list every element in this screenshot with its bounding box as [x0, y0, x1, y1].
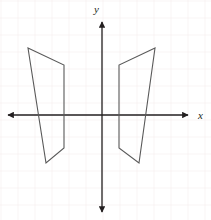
y-axis-label: y: [93, 3, 99, 15]
grid-lines: [0, 0, 211, 220]
coordinate-plane-svg: x y: [0, 0, 211, 220]
x-axis-label: x: [197, 109, 203, 121]
coordinate-plane-figure: x y: [0, 0, 211, 220]
